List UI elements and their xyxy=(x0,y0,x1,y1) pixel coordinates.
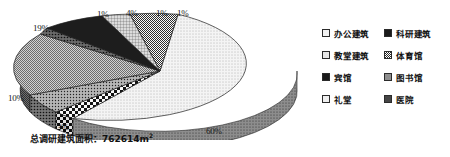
legend-label-hotel: 宾馆 xyxy=(334,71,352,83)
legend-item-gym[interactable]: 体育馆 xyxy=(384,49,448,61)
pie-label-library: 19% xyxy=(33,23,49,33)
pie-label-research: 1% xyxy=(97,9,109,19)
legend-item-hotel[interactable]: 宾馆 xyxy=(322,71,384,83)
legend-swatch-hotel-icon xyxy=(322,73,330,81)
legend-label-office: 办公建筑 xyxy=(334,27,369,39)
legend: 办公建筑 科研建筑 教堂建筑 体育馆 宾馆 图书馆 礼堂 医院 xyxy=(322,22,448,110)
legend-item-hospital[interactable]: 医院 xyxy=(384,93,448,105)
pie-label-auditorium: 3% xyxy=(57,122,69,132)
legend-label-auditorium: 礼堂 xyxy=(334,93,352,105)
square-meter-superscript: 2 xyxy=(149,132,153,139)
pie-label-hospital: 10% xyxy=(8,93,24,103)
legend-label-church: 教堂建筑 xyxy=(334,49,369,61)
legend-label-research: 科研建筑 xyxy=(396,27,431,39)
legend-item-church[interactable]: 教堂建筑 xyxy=(322,49,384,61)
pie-label-office: 60% xyxy=(206,126,222,136)
legend-swatch-gym-icon xyxy=(384,51,392,59)
pie-chart-figure: 1% 4% 1% 1% 19% 10% 3% 60% 总调研建筑面积：76261… xyxy=(0,0,450,157)
total-area-caption-text: 总调研建筑面积：762614m xyxy=(30,134,149,144)
pie-chart-graphic xyxy=(0,0,320,140)
legend-swatch-office-icon xyxy=(322,29,330,37)
legend-item-library[interactable]: 图书馆 xyxy=(384,71,448,83)
legend-label-hospital: 医院 xyxy=(396,93,414,105)
legend-swatch-library-icon xyxy=(384,73,392,81)
legend-label-library: 图书馆 xyxy=(396,71,422,83)
total-area-caption: 总调研建筑面积：762614m2 xyxy=(30,132,153,145)
legend-swatch-auditorium-icon xyxy=(322,95,330,103)
legend-item-office[interactable]: 办公建筑 xyxy=(322,27,384,39)
legend-item-research[interactable]: 科研建筑 xyxy=(384,27,448,39)
legend-swatch-hospital-icon xyxy=(384,95,392,103)
pie-label-church: 1% xyxy=(156,8,168,18)
legend-swatch-church-icon xyxy=(322,51,330,59)
pie-label-hotel: 4% xyxy=(126,8,138,18)
legend-item-auditorium[interactable]: 礼堂 xyxy=(322,93,384,105)
pie-label-gym: 1% xyxy=(177,8,189,18)
legend-label-gym: 体育馆 xyxy=(396,49,422,61)
legend-swatch-research-icon xyxy=(384,29,392,37)
